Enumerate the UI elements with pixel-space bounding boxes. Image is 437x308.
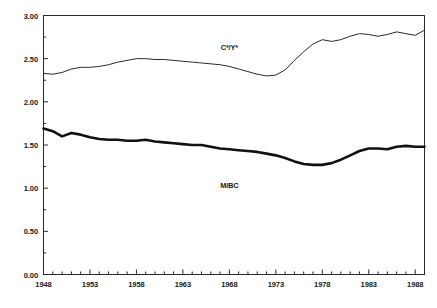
x-axis-tick-label: 1963 [175, 280, 191, 289]
y-axis-tick-label: 0.50 [4, 227, 38, 236]
y-axis-tick-label: 3.00 [4, 11, 38, 20]
x-axis-tick-label: 1978 [314, 280, 330, 289]
x-axis-tick-label: 1958 [128, 280, 144, 289]
x-axis-tick-label: 1968 [221, 280, 237, 289]
x-axis-tick-label: 1948 [35, 280, 51, 289]
y-axis-tick-label: 1.50 [4, 141, 38, 150]
y-axis-tick-label: 2.50 [4, 54, 38, 63]
y-axis-tick-label: 1.00 [4, 184, 38, 193]
x-axis-tick-label: 1988 [407, 280, 423, 289]
y-axis-tick-label: 0.00 [4, 270, 38, 279]
series-label-1: M/BC [220, 180, 238, 189]
plot-frame [44, 16, 425, 275]
chart-plot-area [0, 0, 437, 308]
chart-figure: 0.000.501.001.502.002.503.00194819531958… [0, 0, 437, 308]
series-label-0: C*/Y* [221, 43, 238, 52]
x-axis-tick-label: 1973 [268, 280, 284, 289]
series-line-0 [44, 30, 425, 76]
series-line-1 [44, 129, 425, 165]
y-axis-tick-label: 2.00 [4, 97, 38, 106]
x-axis-tick-label: 1983 [361, 280, 377, 289]
x-axis-tick-label: 1953 [82, 280, 98, 289]
